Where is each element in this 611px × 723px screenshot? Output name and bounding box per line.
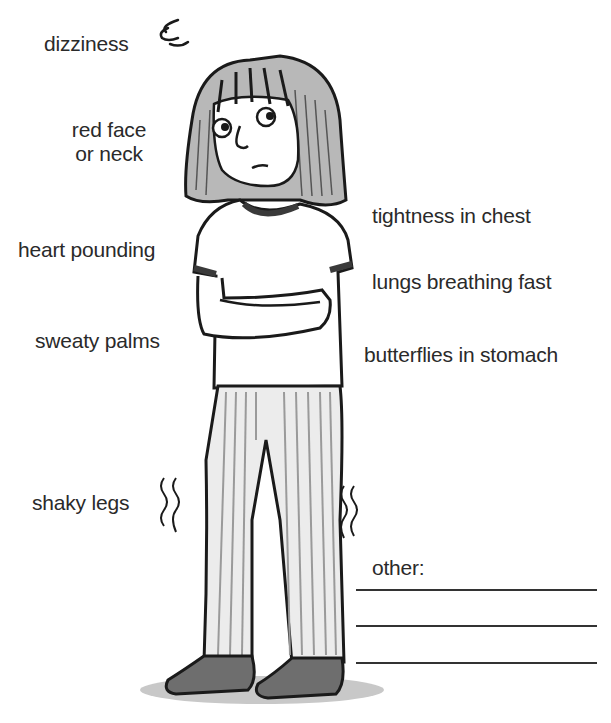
label-dizziness: dizziness	[44, 32, 129, 56]
label-red-face: red face or neck	[64, 118, 154, 166]
label-butterflies-in-stomach: butterflies in stomach	[364, 343, 558, 367]
other-write-in-line-1[interactable]	[356, 589, 597, 591]
right-shoe	[256, 658, 343, 698]
face	[214, 97, 299, 186]
dizziness-squiggle-icon	[161, 20, 188, 46]
left-shoe	[166, 656, 254, 694]
label-lungs-breathing-fast: lungs breathing fast	[372, 270, 551, 294]
label-tightness-in-chest: tightness in chest	[372, 204, 531, 228]
label-red-face-line2: or neck	[64, 142, 154, 166]
label-other: other:	[372, 556, 425, 580]
other-write-in-line-3[interactable]	[356, 662, 597, 664]
label-heart-pounding: heart pounding	[18, 238, 155, 262]
other-write-in-line-2[interactable]	[356, 625, 597, 627]
label-red-face-line1: red face	[64, 118, 154, 142]
label-shaky-legs: shaky legs	[32, 491, 129, 515]
label-sweaty-palms: sweaty palms	[35, 329, 160, 353]
